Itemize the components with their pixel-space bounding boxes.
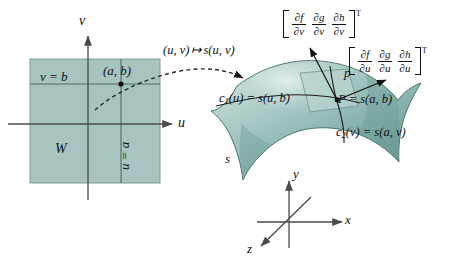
label-u-equals-a: u = a [118, 142, 131, 170]
axis-x-label: x [345, 213, 351, 226]
partial-f-v-num: ∂f [294, 11, 305, 23]
partial-g-u: ∂g ∂u [378, 48, 392, 74]
partial-g-v: ∂g ∂v [312, 11, 326, 37]
axis-u-label: u [178, 116, 185, 130]
label-point-P-rest: = s(a, b) [346, 92, 393, 106]
partial-f-u-num: ∂f [360, 48, 371, 60]
label-W: W [55, 142, 67, 156]
partial-g-v-den: ∂v [313, 25, 325, 37]
bracket-right-u [415, 47, 421, 75]
vector-v-cells: ∂f ∂v ∂g ∂v ∂h ∂v [289, 10, 349, 38]
label-curve-c1: c1(u) = s(u, b) [219, 92, 290, 106]
label-point-P-equation: P= s(a, b) [338, 93, 392, 106]
vector-u-cells: ∂f ∂u ∂g ∂u ∂h ∂u [355, 47, 415, 75]
partial-f-u-den: ∂u [359, 62, 372, 74]
partial-h-u-den: ∂u [399, 62, 412, 74]
tangent-vector-v-formula: ∂f ∂v ∂g ∂v ∂h ∂v T [283, 10, 361, 38]
axis-v-label: v [79, 14, 85, 28]
label-point-P: P [338, 92, 346, 106]
maps-to-icon: ↦ [189, 43, 203, 57]
label-v-equals-b: v = b [40, 70, 68, 83]
partial-h-v-den: ∂v [333, 25, 345, 37]
label-point-a-b: (a, b) [103, 64, 131, 77]
surface-parametrization-figure: v u v = b u = a W (a, b) (u, v)↦s(u, v) … [0, 0, 457, 263]
partial-f-u: ∂f ∂u [358, 48, 372, 74]
curve1-rest: (u) = s(u, b) [229, 91, 290, 105]
transpose-superscript-v: T [356, 9, 361, 18]
partial-h-u: ∂h ∂u [398, 48, 412, 74]
axis-y-label: y [293, 167, 299, 180]
point-a-b [118, 81, 123, 86]
partial-g-v-num: ∂g [313, 11, 326, 23]
partial-h-u-num: ∂h [399, 48, 412, 60]
partial-f-v-den: ∂v [293, 25, 305, 37]
label-surface-s: s [225, 152, 230, 165]
mapping-label-right: s(u, v) [203, 43, 234, 57]
mapping-label-left: (u, v) [163, 43, 189, 57]
transpose-superscript-u: T [422, 46, 427, 55]
tangent-vector-u-formula: ∂f ∂u ∂g ∂u ∂h ∂u T [349, 47, 427, 75]
xyz-axes-group [257, 181, 342, 248]
partial-g-u-num: ∂g [379, 48, 392, 60]
partial-g-u-den: ∂u [379, 62, 392, 74]
axis-z-label: z [247, 242, 252, 255]
partial-f-v: ∂f ∂v [292, 11, 306, 37]
mapping-label: (u, v)↦s(u, v) [163, 44, 235, 57]
partial-h-v-num: ∂h [333, 11, 346, 23]
bracket-right-v [349, 10, 355, 38]
label-curve-c2: c2(v) = s(a, v) [336, 126, 406, 140]
partial-h-v: ∂h ∂v [332, 11, 346, 37]
curve2-rest: (v) = s(a, v) [346, 125, 406, 139]
